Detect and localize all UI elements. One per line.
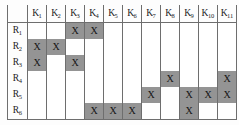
matrix-cell-marked[interactable]: X (85, 23, 104, 40)
matrix-cell-empty[interactable] (104, 87, 123, 103)
cell-mark-glyph: X (166, 71, 173, 87)
cell-mark-glyph: X (90, 23, 97, 39)
matrix-cell-empty[interactable] (66, 87, 85, 103)
incidence-matrix-table: K1K2K3K4K5K6K7K8K9K10K11 R1XXR2XXR3XXR4X… (7, 5, 237, 120)
matrix-cell-empty[interactable] (142, 39, 161, 55)
column-header-k11: K11 (218, 5, 237, 23)
matrix-cell-marked[interactable]: X (218, 71, 237, 87)
matrix-cell-empty[interactable] (123, 39, 142, 55)
column-header-subscript: 7 (153, 12, 156, 19)
matrix-cell-empty[interactable] (85, 39, 104, 55)
matrix-cell-marked[interactable]: X (142, 87, 161, 103)
row-header-subscript: 3 (19, 61, 22, 68)
matrix-cell-empty[interactable] (199, 39, 218, 55)
matrix-cell-empty[interactable] (218, 39, 237, 55)
matrix-cell-empty[interactable] (180, 39, 199, 55)
matrix-cell-empty[interactable] (47, 55, 66, 71)
matrix-cell-empty[interactable] (66, 103, 85, 120)
matrix-cell-empty[interactable] (180, 55, 199, 71)
matrix-cell-empty[interactable] (142, 23, 161, 40)
matrix-cell-empty[interactable] (104, 71, 123, 87)
column-header-subscript: 9 (191, 12, 194, 19)
matrix-cell-empty[interactable] (180, 23, 199, 40)
matrix-cell-empty[interactable] (218, 23, 237, 40)
matrix-cell-marked[interactable]: X (123, 103, 142, 120)
matrix-cell-empty[interactable] (199, 71, 218, 87)
column-header-base: K (127, 8, 134, 18)
matrix-cell-empty[interactable] (47, 71, 66, 87)
matrix-cell-empty[interactable] (218, 55, 237, 71)
cell-mark-glyph: X (204, 87, 211, 103)
matrix-cell-empty[interactable] (28, 87, 47, 103)
matrix-cell-marked[interactable]: X (161, 71, 180, 87)
matrix-cell-empty[interactable] (123, 55, 142, 71)
matrix-cell-empty[interactable] (66, 71, 85, 87)
table-row: R1XX (8, 23, 237, 40)
matrix-cell-empty[interactable] (47, 87, 66, 103)
matrix-cell-empty[interactable] (123, 23, 142, 40)
matrix-cell-empty[interactable] (28, 103, 47, 120)
table-row: R2XX (8, 39, 237, 55)
matrix-cell-marked[interactable]: X (180, 87, 199, 103)
column-header-subscript: 1 (39, 12, 42, 19)
column-header-k3: K3 (66, 5, 85, 23)
matrix-cell-empty[interactable] (104, 23, 123, 40)
matrix-cell-empty[interactable] (199, 55, 218, 71)
matrix-cell-marked[interactable]: X (66, 55, 85, 71)
matrix-cell-empty[interactable] (66, 39, 85, 55)
matrix-cell-empty[interactable] (199, 23, 218, 40)
matrix-cell-empty[interactable] (161, 55, 180, 71)
column-header-subscript: 11 (227, 12, 233, 19)
matrix-cell-marked[interactable]: X (104, 103, 123, 120)
row-header-r6: R6 (8, 103, 28, 120)
matrix-cell-marked[interactable]: X (180, 103, 199, 120)
matrix-cell-marked[interactable]: X (66, 23, 85, 40)
matrix-cell-marked[interactable]: X (85, 103, 104, 120)
matrix-cell-empty[interactable] (161, 23, 180, 40)
cell-mark-glyph: X (147, 87, 154, 103)
matrix-cell-marked[interactable]: X (218, 87, 237, 103)
table-header: K1K2K3K4K5K6K7K8K9K10K11 (8, 5, 237, 23)
table-body: R1XXR2XXR3XXR4XXR5XXXXR6XXXX (8, 23, 237, 120)
matrix-cell-empty[interactable] (104, 55, 123, 71)
incidence-matrix-figure: K1K2K3K4K5K6K7K8K9K10K11 R1XXR2XXR3XXR4X… (0, 0, 239, 125)
row-header-subscript: 2 (19, 45, 22, 52)
matrix-cell-empty[interactable] (142, 55, 161, 71)
matrix-cell-empty[interactable] (161, 87, 180, 103)
matrix-cell-empty[interactable] (142, 71, 161, 87)
table-row: R5XXXX (8, 87, 237, 103)
matrix-cell-empty[interactable] (47, 103, 66, 120)
matrix-cell-marked[interactable]: X (28, 55, 47, 71)
matrix-cell-empty[interactable] (47, 23, 66, 40)
matrix-cell-empty[interactable] (161, 103, 180, 120)
matrix-cell-empty[interactable] (28, 71, 47, 87)
matrix-cell-marked[interactable]: X (47, 39, 66, 55)
matrix-cell-empty[interactable] (85, 55, 104, 71)
matrix-cell-empty[interactable] (142, 103, 161, 120)
matrix-cell-empty[interactable] (180, 71, 199, 87)
column-header-base: K (32, 8, 39, 18)
matrix-cell-empty[interactable] (85, 87, 104, 103)
matrix-cell-empty[interactable] (104, 39, 123, 55)
cell-mark-glyph: X (223, 71, 230, 87)
matrix-cell-empty[interactable] (28, 23, 47, 40)
matrix-cell-empty[interactable] (123, 87, 142, 103)
column-header-k2: K2 (47, 5, 66, 23)
cell-mark-glyph: X (71, 23, 78, 39)
matrix-cell-empty[interactable] (85, 71, 104, 87)
column-header-base: K (51, 8, 58, 18)
matrix-cell-empty[interactable] (123, 71, 142, 87)
matrix-cell-empty[interactable] (161, 39, 180, 55)
cell-mark-glyph: X (128, 103, 135, 119)
matrix-cell-marked[interactable]: X (28, 39, 47, 55)
column-header-base: K (146, 8, 153, 18)
matrix-cell-empty[interactable] (199, 103, 218, 120)
cell-mark-glyph: X (223, 87, 230, 103)
matrix-cell-marked[interactable]: X (199, 87, 218, 103)
column-header-k5: K5 (104, 5, 123, 23)
table-row: R3XX (8, 55, 237, 71)
row-header-r1: R1 (8, 23, 28, 40)
column-header-subscript: 6 (134, 12, 137, 19)
column-header-base: K (184, 8, 191, 18)
matrix-cell-empty[interactable] (218, 103, 237, 120)
